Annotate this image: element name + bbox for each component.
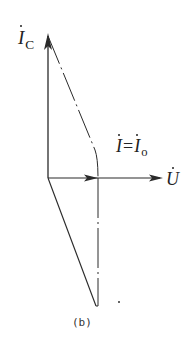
i-equals-io-label: I=Io bbox=[116, 137, 147, 155]
phasor-diagram-svg bbox=[0, 0, 190, 347]
io-symbol: I bbox=[134, 137, 140, 155]
ic-to-i-construction-line bbox=[48, 36, 98, 178]
u-symbol: U bbox=[166, 170, 179, 188]
io-subscript: o bbox=[141, 145, 147, 159]
stray-dot bbox=[118, 301, 120, 303]
equals-sign: = bbox=[123, 136, 133, 156]
ic-subscript: C bbox=[25, 37, 34, 52]
ic-label: IC bbox=[18, 28, 34, 47]
il-vector bbox=[48, 178, 96, 306]
i-symbol: I bbox=[116, 137, 122, 155]
ic-symbol: I bbox=[18, 28, 24, 47]
u-label: U bbox=[166, 170, 179, 188]
phasor-diagram: IC I=Io U (b) bbox=[0, 0, 190, 347]
figure-caption: (b) bbox=[72, 316, 92, 329]
